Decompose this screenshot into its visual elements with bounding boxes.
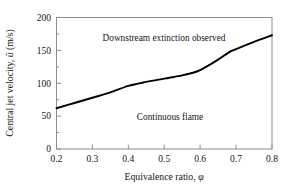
x-axis-title-text: Equivalence ratio, xyxy=(124,171,198,182)
chart-screenshot: 0 50 100 150 200 0.2 0.3 0.4 0.5 0.6 0.7… xyxy=(0,0,285,190)
x-tick-label: 0.5 xyxy=(158,154,170,164)
canvas-background xyxy=(0,0,285,190)
x-tick-label: 0.7 xyxy=(230,154,242,164)
y-axis-title-text: Central jet velocity, xyxy=(4,57,15,136)
lower-region-label: Continuous flame xyxy=(137,112,203,122)
y-axis-units: (m/s) xyxy=(4,29,16,52)
y-tick-label: 50 xyxy=(42,111,52,121)
x-tick-label: 0.4 xyxy=(122,154,134,164)
y-tick-label: 200 xyxy=(37,13,52,23)
y-tick-label: 150 xyxy=(37,46,52,56)
x-tick-label: 0.6 xyxy=(194,154,206,164)
x-tick-label: 0.2 xyxy=(51,154,63,164)
x-axis-title: Equivalence ratio, φ xyxy=(124,171,204,182)
x-tick-label: 0.8 xyxy=(266,154,278,164)
plot-canvas: 0 50 100 150 200 0.2 0.3 0.4 0.5 0.6 0.7… xyxy=(0,0,285,190)
upper-region-label: Downstream extinction observed xyxy=(103,33,226,43)
y-axis-title: Central jet velocity, ū (m/s) xyxy=(4,29,16,136)
phi-symbol: φ xyxy=(198,171,204,182)
y-tick-label: 100 xyxy=(37,79,52,89)
x-tick-label: 0.3 xyxy=(86,154,98,164)
